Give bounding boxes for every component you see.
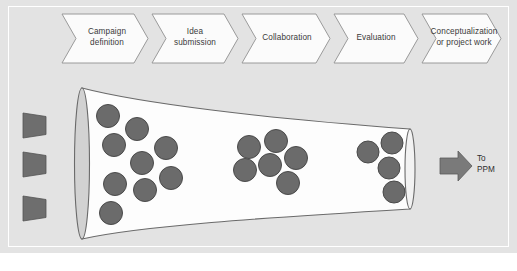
idea-dot[interactable]	[131, 152, 154, 175]
chevron-label-collaboration: Collaboration	[254, 33, 320, 44]
idea-dot[interactable]	[160, 167, 183, 190]
funnel-mouth	[75, 88, 90, 239]
idea-dot[interactable]	[285, 147, 308, 170]
idea-dot[interactable]	[238, 136, 261, 159]
idea-dot[interactable]	[357, 141, 379, 163]
idea-dot[interactable]	[378, 157, 400, 179]
output-label-to-ppm: To PPM	[477, 154, 517, 175]
idea-dot[interactable]	[259, 154, 282, 177]
idea-dot[interactable]	[134, 179, 157, 202]
chevron-label-evaluation: Evaluation	[345, 33, 407, 44]
diagram-canvas: Campaign definition Idea submission Coll…	[0, 0, 517, 271]
idea-dot[interactable]	[381, 132, 403, 154]
idea-dot[interactable]	[155, 137, 178, 160]
idea-dot[interactable]	[103, 134, 126, 157]
input-arrow-2[interactable]	[23, 152, 46, 177]
idea-dot[interactable]	[97, 105, 120, 128]
chevron-label-campaign-definition: Campaign definition	[76, 27, 138, 48]
input-arrow-3[interactable]	[23, 196, 46, 221]
idea-dot[interactable]	[100, 202, 123, 225]
idea-dot[interactable]	[104, 173, 127, 196]
chevron-label-idea-submission: Idea submission	[164, 27, 226, 48]
output-arrow[interactable]	[440, 151, 472, 181]
idea-dot[interactable]	[383, 181, 405, 203]
idea-dot[interactable]	[265, 130, 288, 153]
chevron-label-conceptualization: Conceptualization or project work	[430, 27, 498, 48]
idea-dot[interactable]	[126, 118, 149, 141]
funnel-neck	[405, 129, 415, 209]
idea-dot[interactable]	[234, 159, 257, 182]
input-arrow-1[interactable]	[23, 113, 46, 138]
idea-dot[interactable]	[277, 172, 300, 195]
input-arrows-group	[23, 113, 46, 221]
